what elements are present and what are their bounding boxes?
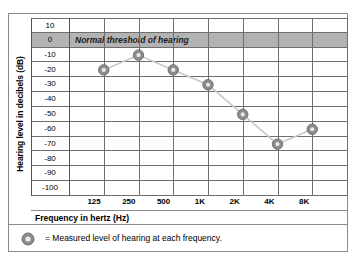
x-axis-tick-label: 8K — [299, 197, 312, 206]
chart-area: Hearing level in decibels (dB) 100Normal… — [9, 14, 347, 224]
legend-label: = Measured level of hearing at each freq… — [45, 233, 222, 243]
legend: = Measured level of hearing at each freq… — [9, 224, 347, 252]
data-point-marker — [272, 139, 282, 149]
x-axis-tick-labels: 1252505001K2K4K8K — [31, 197, 347, 211]
y-axis-tick-label: -30 — [31, 77, 69, 92]
grid-vline — [347, 18, 348, 196]
y-axis-tick-label: -90 — [31, 166, 69, 181]
series-svg — [69, 18, 347, 196]
y-axis-tick-label: -50 — [31, 107, 69, 122]
data-point-marker — [238, 109, 248, 119]
data-point-marker — [168, 65, 178, 75]
y-axis-tick-label: -10 — [31, 48, 69, 63]
data-line — [104, 55, 313, 144]
y-axis-tick-label: -60 — [31, 122, 69, 137]
data-point-marker — [99, 65, 109, 75]
data-point-marker — [203, 80, 213, 90]
x-axis-tick-label: 500 — [157, 197, 173, 206]
y-axis-title-container: Hearing level in decibels (dB) — [9, 14, 31, 224]
data-plot — [69, 18, 347, 196]
y-axis-tick-label: -70 — [31, 137, 69, 152]
y-axis-title: Hearing level in decibels (dB) — [15, 19, 25, 209]
y-axis-tick-label: -100 — [31, 181, 69, 196]
y-axis-tick-label: 10 — [31, 19, 69, 34]
x-axis-tick-label: 2K — [230, 197, 243, 206]
y-axis-tick-label: -20 — [31, 63, 69, 78]
x-axis-tick-label: 4K — [264, 197, 277, 206]
grid-vline — [31, 18, 32, 196]
x-axis-tick-label: 250 — [122, 197, 138, 206]
plot-grid: 100Normal threshold of hearing-10-20-30-… — [31, 18, 347, 196]
x-axis-tick-label: 1K — [195, 197, 208, 206]
measured-level-marker-icon — [21, 232, 35, 246]
x-axis-title: Frequency in hertz (Hz) — [35, 213, 129, 223]
y-axis-tick-label: -40 — [31, 92, 69, 107]
data-point-marker — [133, 50, 143, 60]
y-axis-tick-label: -80 — [31, 152, 69, 167]
audiogram-figure: Hearing level in decibels (dB) 100Normal… — [8, 13, 348, 252]
x-axis-title-strip: Frequency in hertz (Hz) — [31, 210, 347, 225]
y-axis-tick-label: 0 — [31, 33, 69, 48]
data-point-marker — [307, 124, 317, 134]
x-axis-tick-label: 125 — [87, 197, 103, 206]
